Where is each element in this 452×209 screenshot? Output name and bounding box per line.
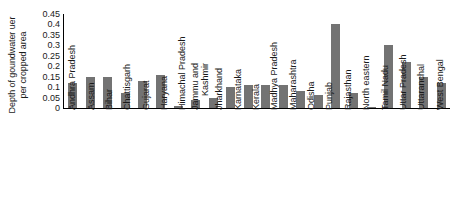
x-slot: Uttar Pradesh (394, 110, 412, 209)
y-axis-tick-label: 0 (55, 104, 60, 113)
x-slot: West Bengal (431, 110, 449, 209)
y-axis-tick-label: 0.4 (47, 20, 60, 29)
x-slot: Odisha (302, 110, 320, 209)
x-axis-tick-labels: Andhra PradeshAssamBiharChattisgarhGujar… (63, 110, 449, 209)
y-axis-title: Depth of goundwater uer per cropped area (0, 0, 36, 130)
x-axis-tick-label: Rajasthan (343, 69, 353, 110)
y-axis-tick-label: 0.15 (42, 72, 60, 81)
y-axis-tick-label: 0.35 (42, 30, 60, 39)
y-axis-tick-labels: 00.050.10.150.20.250.30.350.40.45 (34, 14, 60, 108)
x-axis-tick-label: Karnataka (233, 69, 243, 110)
x-axis-tick-label: Jharkhand (214, 68, 224, 110)
x-slot: Bihar (100, 110, 118, 209)
x-slot: Karnataka (228, 110, 246, 209)
x-axis-tick-label-line: Kashmir (200, 63, 210, 110)
x-slot: Chattisgarh (118, 110, 136, 209)
x-slot: Punjab (320, 110, 338, 209)
x-slot: Rajasthan (339, 110, 357, 209)
x-axis-tick-label: Assam (86, 82, 96, 110)
y-axis-tick-label: 0.3 (47, 41, 60, 50)
x-slot: Andhra Pradesh (63, 110, 81, 209)
x-axis-tick-label: Himachal Pradesh (177, 36, 187, 110)
y-axis-title-line-1: Depth of goundwater uer (7, 17, 18, 114)
x-slot: Assam (81, 110, 99, 209)
x-axis-tick-label: West Bengal (435, 59, 445, 110)
y-axis-tick-label: 0.1 (47, 83, 60, 92)
y-axis-title-line-2: per cropped area (18, 32, 29, 99)
x-slot: Maharashtra (284, 110, 302, 209)
y-axis-tick-label: 0.05 (42, 93, 60, 102)
y-axis-tick-label: 0.45 (42, 10, 60, 19)
x-axis-tick-label: Madhya Pradesh (269, 42, 279, 110)
x-slot: Haryana (155, 110, 173, 209)
x-axis-tick-label: Uttaranchal (416, 64, 426, 110)
x-axis-tick-label: North eastern (361, 55, 371, 110)
x-slot: Kerala (247, 110, 265, 209)
x-axis-tick-label: Gujarat (141, 80, 151, 110)
x-slot: Uttaranchal (412, 110, 430, 209)
x-slot: North eastern (357, 110, 375, 209)
x-axis-tick-label: Maharashtra (288, 59, 298, 110)
x-slot: Tamil Nadu (375, 110, 393, 209)
x-slot: Jammu andKashmir (192, 110, 210, 209)
x-slot: Jharkhand (210, 110, 228, 209)
x-axis-tick-label: Chattisgarh (122, 64, 132, 110)
x-axis-tick-label: Tamil Nadu (380, 65, 390, 110)
x-slot: Madhya Pradesh (265, 110, 283, 209)
x-axis-tick-label: Odisha (306, 81, 316, 110)
x-axis-tick-label-line: Jammu and (190, 63, 200, 110)
x-axis-tick-label: Andhra Pradesh (67, 45, 77, 110)
x-axis-tick-label: Punjab (324, 82, 334, 110)
x-slot: Himachal Pradesh (173, 110, 191, 209)
x-axis-tick-label: Jammu andKashmir (190, 63, 210, 110)
x-axis-tick-label: Kerala (251, 84, 261, 110)
x-slot: Gujarat (137, 110, 155, 209)
x-axis-tick-label: Uttar Pradesh (398, 54, 408, 110)
y-axis-tick-label: 0.2 (47, 62, 60, 71)
bar-chart: Depth of goundwater uer per cropped area… (0, 0, 452, 209)
y-axis-tick-label: 0.25 (42, 51, 60, 60)
x-axis-tick-label: Bihar (104, 89, 114, 110)
x-axis-tick-label: Haryana (159, 76, 169, 110)
bar (279, 85, 288, 108)
